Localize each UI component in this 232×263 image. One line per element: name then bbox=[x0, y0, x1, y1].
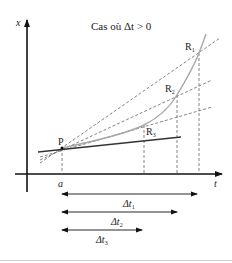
secant-lines bbox=[40, 38, 220, 163]
tick-label-a: a bbox=[58, 178, 63, 189]
secant-P-R1 bbox=[40, 38, 220, 163]
x-axis-label: t bbox=[214, 178, 217, 189]
interval-label-2: Δt2 bbox=[110, 216, 123, 228]
secant-tangent-diagram: Cas où Δt > 0 x t a P R1 R2 R3 Δt1 Δt2 Δ… bbox=[0, 0, 232, 263]
point-R1-label: R1 bbox=[185, 41, 195, 53]
interval-label-1: Δt1 bbox=[122, 198, 135, 210]
interval-label-3: Δt3 bbox=[95, 234, 108, 246]
point-R2-label: R2 bbox=[165, 83, 175, 95]
bottom-divider bbox=[0, 260, 232, 261]
secant-P-R2 bbox=[40, 80, 212, 160]
y-axis-label: x bbox=[15, 17, 21, 28]
vertical-guides bbox=[62, 53, 199, 174]
diagram-title: Cas où Δt > 0 bbox=[91, 20, 152, 32]
point-P-label: P bbox=[58, 136, 64, 147]
point-R3-label: R3 bbox=[146, 126, 156, 138]
